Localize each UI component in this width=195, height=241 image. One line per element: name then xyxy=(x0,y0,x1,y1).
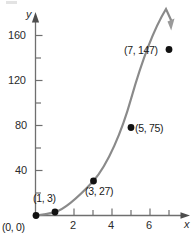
x-axis-label: x xyxy=(184,218,190,230)
y-tick-label-40: 40 xyxy=(15,164,27,176)
data-point-5-75 xyxy=(128,124,135,131)
data-point-7-147 xyxy=(166,46,173,53)
x-tick-label-4: 4 xyxy=(108,219,114,231)
chart-figure: y x 160 120 80 40 2 4 6 (0, 0) (1, 3) (3… xyxy=(0,0,195,241)
x-tick-label-2: 2 xyxy=(70,219,76,231)
y-tick-label-160: 160 xyxy=(8,29,26,41)
point-label-1-3: (1, 3) xyxy=(33,192,56,204)
point-label-5-75: (5, 75) xyxy=(135,122,163,134)
plot-canvas xyxy=(0,0,195,241)
point-label-3-27: (3, 27) xyxy=(85,185,113,197)
y-tick-label-80: 80 xyxy=(15,119,27,131)
x-axis-major-ticks xyxy=(74,209,150,216)
curve-arrowhead xyxy=(168,19,175,31)
y-tick-label-120: 120 xyxy=(8,74,26,86)
data-point-3-27 xyxy=(90,178,97,185)
point-label-7-147: (7, 147) xyxy=(124,44,158,56)
data-point-0-0 xyxy=(33,212,40,219)
y-axis-arrowhead xyxy=(32,12,39,23)
x-tick-label-6: 6 xyxy=(146,219,152,231)
y-axis-label: y xyxy=(26,8,32,20)
point-label-origin: (0, 0) xyxy=(2,221,25,233)
data-point-1-3 xyxy=(52,209,59,216)
